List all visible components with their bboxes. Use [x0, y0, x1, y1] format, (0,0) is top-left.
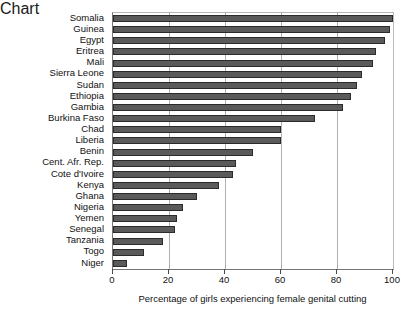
x-tick-label: 0: [109, 275, 114, 285]
category-label: Nigeria: [0, 201, 108, 212]
bar-row: [113, 102, 393, 113]
category-label: Ethiopia: [0, 90, 108, 101]
category-label: Sudan: [0, 79, 108, 90]
bar-row: [113, 191, 393, 202]
category-label: Sierra Leone: [0, 68, 108, 79]
x-tick-label: 100: [384, 275, 400, 285]
category-label: Eritrea: [0, 45, 108, 56]
bar: [113, 160, 236, 167]
x-axis-tick-labels: 020406080100: [112, 275, 393, 289]
bar: [113, 226, 175, 233]
category-label: Togo: [0, 246, 108, 257]
bar: [113, 193, 197, 200]
x-axis-title: Percentage of girls experiencing female …: [112, 294, 393, 304]
bar: [113, 115, 315, 122]
bar-series: [113, 13, 393, 269]
bar: [113, 215, 177, 222]
bar-chart: SomaliaGuineaEgyptEritreaMaliSierra Leon…: [0, 0, 413, 324]
category-label: Egypt: [0, 34, 108, 45]
bar-row: [113, 169, 393, 180]
bar-row: [113, 91, 393, 102]
bar-row: [113, 58, 393, 69]
bar: [113, 104, 343, 111]
bar: [113, 238, 163, 245]
category-label: Cent. Afr. Rep.: [0, 157, 108, 168]
category-label: Somalia: [0, 12, 108, 23]
category-label: Niger: [0, 257, 108, 268]
x-tick-label: 20: [163, 275, 174, 285]
bar-row: [113, 236, 393, 247]
x-tick-label: 60: [275, 275, 286, 285]
category-axis-labels: SomaliaGuineaEgyptEritreaMaliSierra Leon…: [0, 12, 108, 268]
bar-row: [113, 80, 393, 91]
category-label: Cote d'Ivoire: [0, 168, 108, 179]
bar: [113, 171, 233, 178]
bar-row: [113, 158, 393, 169]
bar: [113, 182, 219, 189]
bar-row: [113, 258, 393, 269]
bar: [113, 37, 385, 44]
bar-row: [113, 202, 393, 213]
category-label: Gambia: [0, 101, 108, 112]
bar: [113, 82, 357, 89]
bar-row: [113, 35, 393, 46]
bar: [113, 204, 183, 211]
bar-row: [113, 147, 393, 158]
bar-row: [113, 135, 393, 146]
bar: [113, 26, 390, 33]
bar-row: [113, 113, 393, 124]
category-label: Kenya: [0, 179, 108, 190]
bar-row: [113, 213, 393, 224]
bar: [113, 137, 281, 144]
bar: [113, 71, 362, 78]
bar: [113, 48, 376, 55]
category-label: Burkina Faso: [0, 112, 108, 123]
bar: [113, 60, 373, 67]
bar-row: [113, 124, 393, 135]
category-label: Tanzania: [0, 235, 108, 246]
bar-row: [113, 247, 393, 258]
category-label: Yemen: [0, 212, 108, 223]
bar: [113, 15, 393, 22]
plot-area: [112, 12, 394, 270]
category-label: Liberia: [0, 134, 108, 145]
bar-row: [113, 46, 393, 57]
category-label: Senegal: [0, 223, 108, 234]
category-label: Ghana: [0, 190, 108, 201]
bar-row: [113, 13, 393, 24]
bar: [113, 249, 144, 256]
bar: [113, 126, 281, 133]
bar-row: [113, 24, 393, 35]
x-axis-ticks: [112, 269, 393, 274]
bar-row: [113, 224, 393, 235]
category-label: Guinea: [0, 23, 108, 34]
bar: [113, 93, 351, 100]
category-label: Benin: [0, 146, 108, 157]
category-label: Chad: [0, 123, 108, 134]
x-tick-label: 40: [219, 275, 230, 285]
bar-row: [113, 180, 393, 191]
category-label: Mali: [0, 57, 108, 68]
x-tick-label: 80: [331, 275, 342, 285]
bar: [113, 149, 253, 156]
bar: [113, 260, 127, 267]
bar-row: [113, 69, 393, 80]
